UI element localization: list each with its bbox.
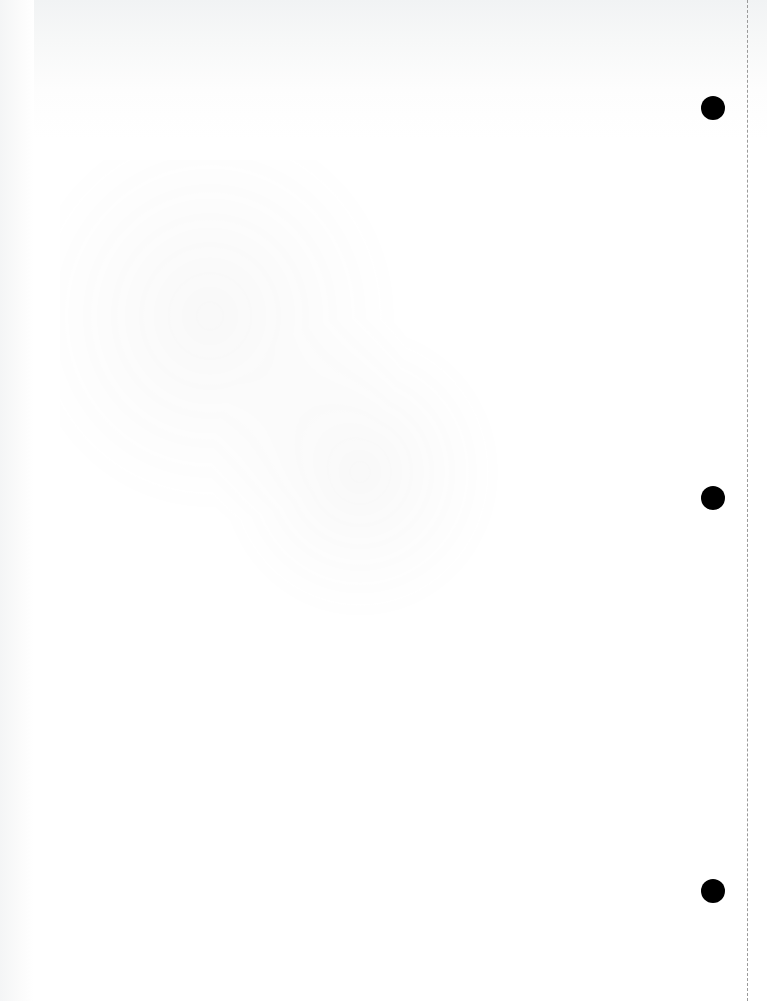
punch-hole-top (701, 96, 725, 120)
left-margin-shadow (0, 0, 34, 1001)
scanned-page (0, 0, 767, 1001)
bleed-through-ghost (60, 160, 560, 680)
punch-hole-middle (701, 486, 725, 510)
punch-hole-bottom (701, 879, 725, 903)
perforation-line (747, 0, 748, 1001)
